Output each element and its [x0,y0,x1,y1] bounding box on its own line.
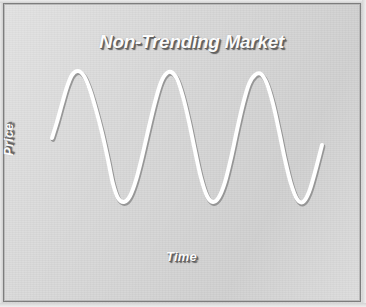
chart-figure: Non-Trending Market Time Price [0,0,366,307]
x-axis-label: Time [166,249,197,264]
price-curve-shadow [53,73,323,204]
y-axis-label: Price [1,123,16,156]
page-title: Non-Trending Market [99,31,284,53]
